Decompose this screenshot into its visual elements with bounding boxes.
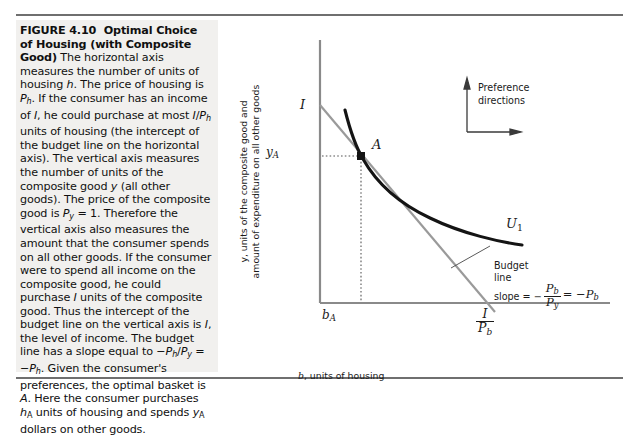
- budget-line: [320, 105, 495, 312]
- y-optimal-tick-label: yA: [266, 145, 279, 160]
- budget-annotation-leader: [451, 246, 490, 268]
- preference-directions-line2: directions: [478, 95, 529, 108]
- preference-directions-label: Preference directions: [478, 82, 529, 107]
- x-intercept-label: I Pb: [476, 308, 494, 336]
- x-intercept-numerator: I: [476, 308, 494, 321]
- caption-body: The horizontal axis measures the number …: [20, 51, 211, 436]
- y-axis-title-line2: amount of expenditure on all other goods: [249, 77, 261, 287]
- caption-panel: FIGURE 4.10 Optimal Choice of Housing (w…: [16, 20, 218, 372]
- preference-directions-line1: Preference: [478, 82, 529, 95]
- x-optimal-tick-label: bA: [322, 308, 336, 323]
- indifference-curve-label: U1: [506, 216, 523, 233]
- budget-annotation-line1: Budget: [494, 260, 599, 272]
- slope-prefix: slope = −: [494, 291, 542, 303]
- optimal-basket-label: A: [372, 137, 381, 152]
- chart-svg: [218, 20, 623, 372]
- x-axis-title: b, units of housing: [298, 370, 384, 381]
- y-intercept-label: I: [300, 97, 305, 112]
- y-axis-title: y, units of the composite good and amoun…: [238, 77, 261, 287]
- figure-caption: FIGURE 4.10 Optimal Choice of Housing (w…: [20, 24, 212, 436]
- budget-line-annotation: Budget line slope = − Pb Py = −Pb: [494, 260, 599, 310]
- top-divider-rule: [16, 14, 623, 16]
- chart-plot-area: y, units of the composite good and amoun…: [218, 20, 623, 372]
- y-axis-title-line1: y, units of the composite good and: [238, 77, 250, 287]
- indifference-curve: [345, 110, 522, 245]
- slope-denominator: Py: [544, 296, 561, 310]
- figure-number: FIGURE 4.10: [20, 24, 96, 37]
- optimal-basket-marker: [357, 152, 365, 160]
- slope-suffix: = −Pb: [563, 289, 599, 304]
- budget-slope-formula: slope = − Pb Py = −Pb: [494, 283, 599, 310]
- x-intercept-denominator: Pb: [476, 321, 494, 337]
